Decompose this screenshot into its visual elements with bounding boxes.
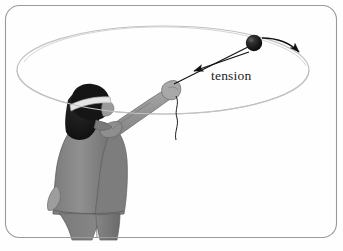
illustration-canvas: tension (0, 0, 343, 251)
ball (246, 35, 262, 51)
ball-highlight (248, 38, 253, 42)
tension-label: tension (211, 68, 251, 83)
physics-illustration-ball-on-string: tension (0, 0, 343, 251)
background (0, 0, 343, 251)
